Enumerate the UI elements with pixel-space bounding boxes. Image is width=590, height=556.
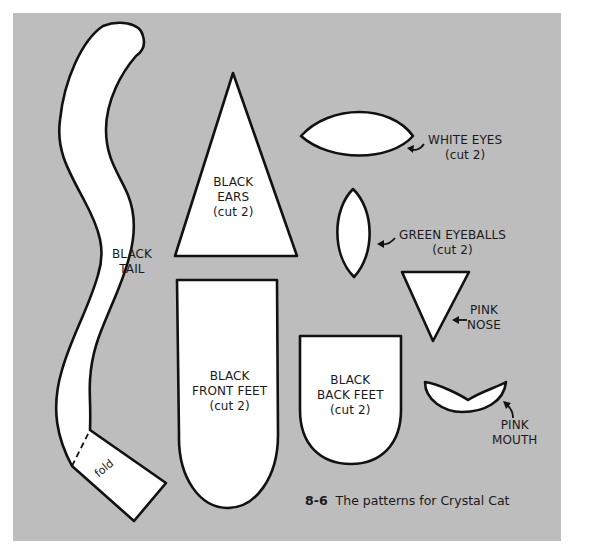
back-feet-label-line-2: BACK FEET bbox=[317, 388, 384, 403]
back-feet-label: BLACK BACK FEET (cut 2) bbox=[317, 373, 384, 418]
front-feet-label: BLACK FRONT FEET (cut 2) bbox=[192, 369, 267, 414]
ears-label-line-2: EARS bbox=[213, 190, 253, 205]
nose-label-line-1: PINK bbox=[467, 303, 501, 318]
ears-label-line-1: BLACK bbox=[213, 175, 253, 190]
green-eyeballs-arrowhead-icon bbox=[377, 240, 384, 248]
green-eyeballs-label-line-2: (cut 2) bbox=[399, 243, 506, 258]
back-feet-label-line-3: (cut 2) bbox=[317, 403, 384, 418]
nose-pattern-piece bbox=[402, 272, 469, 341]
green-eyeballs-label-line-1: GREEN EYEBALLS bbox=[399, 228, 506, 243]
white-eyes-pattern-piece bbox=[301, 112, 413, 156]
nose-label: PINK NOSE bbox=[467, 303, 501, 333]
front-feet-label-line-2: FRONT FEET bbox=[192, 384, 267, 399]
mouth-pattern-piece bbox=[425, 382, 506, 412]
pattern-shapes bbox=[0, 0, 590, 556]
white-eyes-label: WHITE EYES (cut 2) bbox=[428, 133, 502, 163]
mouth-label: PINK MOUTH bbox=[492, 418, 537, 448]
white-eyes-label-line-1: WHITE EYES bbox=[428, 133, 502, 148]
white-eyes-arrowhead-icon bbox=[407, 145, 414, 153]
white-eyes-label-line-2: (cut 2) bbox=[428, 148, 502, 163]
back-feet-label-line-1: BLACK bbox=[317, 373, 384, 388]
tail-label: BLACK TAIL bbox=[112, 247, 152, 277]
figure-number: 8-6 bbox=[305, 493, 328, 508]
figure-caption-text: The patterns for Crystal Cat bbox=[336, 493, 510, 508]
ears-label: BLACK EARS (cut 2) bbox=[213, 175, 253, 220]
nose-label-line-2: NOSE bbox=[467, 318, 501, 333]
nose-arrowhead-icon bbox=[452, 316, 459, 324]
ears-label-line-3: (cut 2) bbox=[213, 205, 253, 220]
front-feet-label-line-3: (cut 2) bbox=[192, 399, 267, 414]
tail-label-line-2: TAIL bbox=[112, 262, 152, 277]
mouth-label-line-2: MOUTH bbox=[492, 433, 537, 448]
green-eyeballs-pattern-piece bbox=[337, 189, 369, 277]
figure-caption: 8-6The patterns for Crystal Cat bbox=[305, 493, 509, 508]
tail-label-line-1: BLACK bbox=[112, 247, 152, 262]
mouth-label-line-1: PINK bbox=[492, 418, 537, 433]
front-feet-label-line-1: BLACK bbox=[192, 369, 267, 384]
ears-pattern-piece bbox=[175, 73, 297, 256]
green-eyeballs-label: GREEN EYEBALLS (cut 2) bbox=[399, 228, 506, 258]
